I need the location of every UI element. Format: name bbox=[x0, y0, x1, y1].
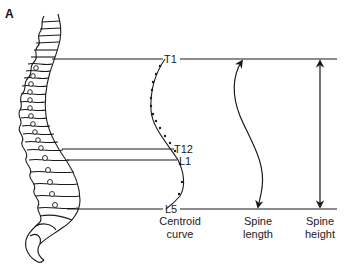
level-label-l5: L5 bbox=[165, 203, 177, 215]
level-label-l1: L1 bbox=[179, 155, 191, 167]
spine-length-arrow bbox=[234, 61, 262, 207]
caption-spine-length: Spine length bbox=[236, 215, 280, 241]
panel-label: A bbox=[5, 7, 14, 21]
spine-illustration bbox=[19, 14, 80, 262]
caption-centroid-curve: Centroid curve bbox=[152, 215, 208, 241]
level-label-t12: T12 bbox=[174, 143, 193, 155]
centroid-curve bbox=[150, 59, 184, 209]
level-label-t1: T1 bbox=[164, 53, 177, 65]
caption-spine-height: Spine height bbox=[298, 215, 342, 241]
spine-diagram: A T1 T12 L1 L5 Centroid curve Spine leng… bbox=[0, 0, 354, 271]
level-lines bbox=[52, 59, 337, 209]
